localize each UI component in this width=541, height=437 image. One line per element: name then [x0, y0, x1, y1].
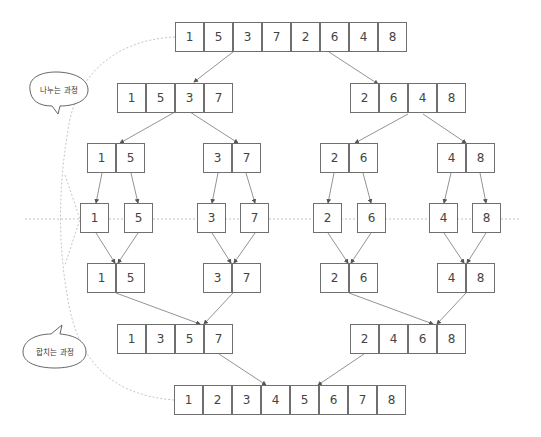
arrow-connector — [467, 233, 486, 263]
array-cell: 3 — [197, 203, 226, 233]
array-cell: 1 — [80, 203, 109, 233]
array-cell: 6 — [349, 263, 378, 293]
arrow-connector — [349, 293, 433, 324]
array-cell: 6 — [379, 83, 408, 113]
arrow-connector — [190, 112, 238, 143]
arrow-connector — [318, 354, 364, 385]
array-cell: 1 — [117, 324, 146, 354]
array-cell: 4 — [429, 203, 458, 233]
arrow-connector — [328, 233, 348, 263]
array-cell: 7 — [348, 385, 377, 415]
array-cell: 8 — [437, 83, 466, 113]
arrow-connector — [328, 173, 334, 203]
array-cell: 3 — [203, 143, 232, 173]
array-cell: 4 — [437, 143, 466, 173]
arrow-connector — [212, 233, 231, 263]
array-cell: 3 — [232, 385, 261, 415]
array-cell: 2 — [320, 263, 349, 293]
array-cell: 5 — [290, 385, 319, 415]
arrow-connector — [444, 173, 451, 203]
arrow-connector — [131, 173, 138, 203]
array-cell: 8 — [466, 263, 495, 293]
array-cell: 4 — [437, 263, 466, 293]
array-cell: 8 — [466, 143, 495, 173]
array-cell: 7 — [204, 83, 233, 113]
array-cell: 2 — [320, 143, 349, 173]
array-cell: 7 — [262, 22, 291, 52]
arrow-connector — [219, 354, 266, 385]
arrow-connector — [96, 173, 102, 203]
array-cell: 5 — [116, 143, 145, 173]
array-cell: 4 — [379, 324, 408, 354]
arrow-connector — [423, 114, 466, 143]
arrow-connector — [212, 173, 218, 203]
array-cell: 2 — [203, 385, 232, 415]
arrow-connector — [246, 173, 255, 203]
array-cell: 5 — [204, 22, 233, 52]
array-cell: 2 — [350, 83, 379, 113]
array-cell: 3 — [175, 83, 204, 113]
array-cell: 5 — [116, 263, 145, 293]
array-cell: 7 — [232, 143, 261, 173]
array-cell: 1 — [117, 83, 146, 113]
array-cell: 7 — [232, 263, 261, 293]
arrow-connector — [351, 233, 371, 263]
arrow-connector — [437, 293, 466, 324]
array-cell: 1 — [175, 22, 204, 52]
arrow-connector — [363, 173, 371, 203]
arrow-connector — [194, 52, 233, 82]
array-cell: 8 — [377, 385, 406, 415]
array-cell: 6 — [319, 385, 348, 415]
divide-process-label: 나누는 과정 — [40, 84, 77, 95]
merge-sort-diagram: 나누는 과정 합치는 과정 15372648153726481537264815… — [0, 0, 541, 437]
array-cell: 4 — [349, 22, 378, 52]
array-cell: 3 — [203, 263, 232, 293]
arrow-connector — [329, 52, 378, 84]
array-cell: 2 — [291, 22, 320, 52]
array-cell: 5 — [146, 83, 175, 113]
arrow-connector — [234, 233, 255, 263]
array-cell: 3 — [146, 324, 175, 354]
array-cell: 2 — [313, 203, 342, 233]
array-cell: 2 — [350, 324, 379, 354]
arrow-connector — [118, 233, 138, 263]
array-cell: 5 — [175, 324, 204, 354]
array-cell: 8 — [378, 22, 407, 52]
arrow-connector — [116, 293, 200, 324]
array-cell: 6 — [349, 143, 378, 173]
arrow-connector — [96, 233, 115, 263]
array-cell: 7 — [240, 203, 269, 233]
arc-chevron — [65, 175, 80, 265]
array-cell: 4 — [261, 385, 290, 415]
arrow-connector — [204, 293, 233, 324]
array-cell: 3 — [233, 22, 262, 52]
array-cell: 5 — [124, 203, 153, 233]
array-cell: 4 — [408, 83, 437, 113]
arrow-connector — [120, 112, 175, 143]
arrow-connector — [480, 173, 486, 203]
arrow-connector — [355, 114, 408, 143]
array-cell: 6 — [408, 324, 437, 354]
array-cell: 7 — [204, 324, 233, 354]
array-cell: 1 — [174, 385, 203, 415]
array-cell: 6 — [320, 22, 349, 52]
array-cell: 1 — [87, 143, 116, 173]
arrow-connector — [444, 233, 464, 263]
array-cell: 6 — [357, 203, 386, 233]
array-cell: 8 — [472, 203, 501, 233]
array-cell: 1 — [87, 263, 116, 293]
array-cell: 8 — [437, 324, 466, 354]
merge-process-label: 합치는 과정 — [36, 346, 73, 357]
